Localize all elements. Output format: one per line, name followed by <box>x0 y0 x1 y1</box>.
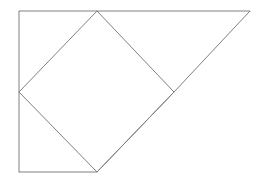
vertex-diamond-top <box>97 11 98 12</box>
vertex-diamond-bottom <box>97 172 98 173</box>
figure-background <box>0 0 273 183</box>
vertex-top-left <box>19 11 20 12</box>
vertex-top-right <box>250 11 251 12</box>
vertex-diamond-right <box>174 92 175 93</box>
vertex-bottom-left <box>19 172 20 173</box>
vertex-diamond-left <box>19 92 20 93</box>
geometric-figure-canvas <box>0 0 273 183</box>
